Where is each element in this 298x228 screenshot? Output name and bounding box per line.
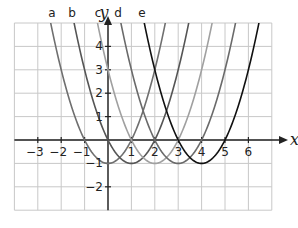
x-tick-label: 5 [221,145,229,159]
curve-label-e: e [138,6,145,20]
curve-label-c: c [95,6,102,20]
graph: xy −3−2−11234564321−1−2 abcde [0,0,298,228]
curve-labels: abcde [48,6,145,20]
y-tick-label: 3 [95,63,103,77]
x-tick-label: −3 [26,145,44,159]
x-tick-label: 4 [198,145,206,159]
y-tick-label: 4 [95,39,103,53]
axes: xy [14,3,298,210]
grid-lines [14,23,271,210]
curve-label-a: a [48,6,55,20]
curve-label-d: d [114,6,122,20]
curve-label-b: b [68,6,76,20]
y-tick-label: −2 [85,180,103,194]
x-tick-label: 2 [151,145,159,159]
x-tick-label: 1 [128,145,136,159]
x-axis-arrow-icon [279,136,288,144]
x-tick-label: −2 [49,145,67,159]
y-tick-label: 2 [95,86,103,100]
x-tick-label: 3 [174,145,182,159]
x-tick-label: 6 [245,145,253,159]
x-axis-label: x [290,130,298,149]
y-tick-label: 1 [95,110,103,124]
y-tick-label: −1 [85,156,103,170]
